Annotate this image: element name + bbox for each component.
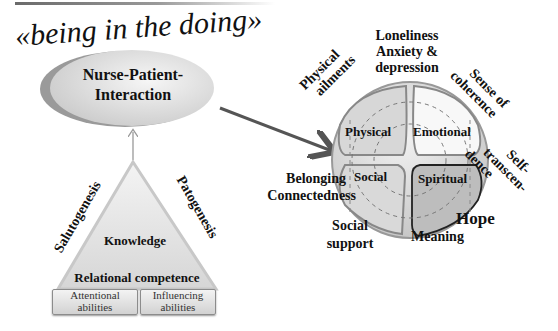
influencing-line1: Influencing [141,290,215,302]
belonging-line2: Connectedness [246,188,356,205]
relational-competence-label: Relational competence [64,271,210,285]
knowledge-label: Knowledge [95,234,175,248]
belonging-line1: Belonging [246,171,356,188]
loneliness-line2: Anxiety & [362,44,452,60]
label-belonging: Belonging Connectedness [246,171,356,205]
label-social-support: Social support [322,217,378,253]
attentional-line2: abilities [53,302,137,314]
influencing-abilities-box: Influencing abilities [140,289,216,315]
interaction-line1: Nurse-Patient- [78,67,188,84]
influencing-line2: abilities [141,302,215,314]
interaction-line2: Interaction [78,87,188,104]
loneliness-line3: depression [362,60,452,76]
support-line2: support [322,235,378,253]
quadrant-emotional: Emotional [413,125,471,139]
quadrant-spiritual: Spiritual [418,172,467,186]
quadrant-physical: Physical [345,125,391,139]
label-hope: Hope [456,210,495,228]
interaction-arrow [220,108,332,151]
loneliness-line1: Loneliness [362,28,452,44]
attentional-abilities-box: Attentional abilities [52,289,138,315]
support-line1: Social [322,217,378,235]
label-loneliness: Loneliness Anxiety & depression [362,28,452,76]
label-meaning: Meaning [411,230,464,245]
attentional-line1: Attentional [53,290,137,302]
quadrant-social: Social [354,170,387,184]
